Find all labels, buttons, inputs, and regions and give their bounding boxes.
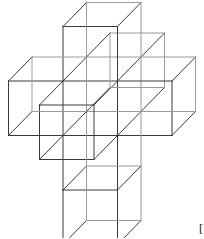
cube-edge xyxy=(172,112,196,136)
cube-edge xyxy=(118,112,142,136)
cube-edge xyxy=(63,221,87,239)
cube-edge xyxy=(118,166,142,190)
cube-edge xyxy=(63,3,87,27)
cropped-caption-text: [ 4 p xyxy=(199,198,204,238)
cube-edge xyxy=(40,81,64,105)
cube-edge xyxy=(141,88,165,112)
caption-line-1: [ xyxy=(199,223,204,236)
cube-edge xyxy=(9,57,33,81)
cube-edge xyxy=(63,57,87,81)
cube-edge xyxy=(172,57,196,81)
bottom-cube xyxy=(63,166,141,238)
cube-edge xyxy=(87,33,111,57)
cube-edge xyxy=(87,88,111,112)
cube-edges xyxy=(9,3,196,239)
cube-edge xyxy=(118,57,142,81)
tesseract-net-diagram xyxy=(0,0,204,238)
cube-edge xyxy=(40,136,64,160)
cube-edge xyxy=(94,136,118,160)
cube-edge xyxy=(63,112,87,136)
cube-edge xyxy=(141,33,165,57)
cube-edge xyxy=(63,166,87,190)
cube-edge xyxy=(118,3,142,27)
cube-edge xyxy=(118,221,142,239)
cube-edge xyxy=(94,81,118,105)
cube-edge xyxy=(9,112,33,136)
